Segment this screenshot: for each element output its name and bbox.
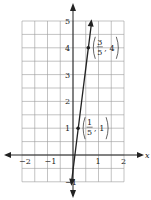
data-line: 15, 135, 4 <box>69 19 118 185</box>
svg-text:1: 1 <box>87 118 92 127</box>
data-point <box>76 126 80 130</box>
svg-text:, 1: , 1 <box>94 124 104 133</box>
x-tick-label: 1 <box>96 157 101 166</box>
data-point <box>87 46 91 50</box>
x-tick-label: −2 <box>19 157 31 166</box>
y-tick-label: 5 <box>65 17 70 26</box>
y-tick-label: 3 <box>65 71 70 80</box>
svg-text:, 4: , 4 <box>104 44 114 53</box>
coordinate-plane: x −2−112−112345 15, 135, 4 <box>0 0 151 200</box>
svg-text:3: 3 <box>97 38 102 47</box>
y-tick-label: 4 <box>65 44 70 53</box>
x-axis-label: x <box>145 151 150 160</box>
x-tick-label: −1 <box>45 157 57 166</box>
svg-text:5: 5 <box>97 48 102 57</box>
y-tick-label: 1 <box>65 124 70 133</box>
y-tick-label: 2 <box>65 97 70 106</box>
svg-text:5: 5 <box>87 128 92 137</box>
x-tick-label: 2 <box>121 157 126 166</box>
